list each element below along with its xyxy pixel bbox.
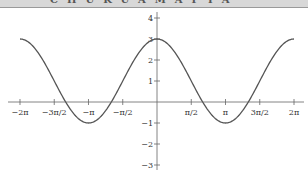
y-tick-label: 1 [148,77,153,86]
x-tick-label: −3π/2 [42,108,67,117]
y-tick-label: −3 [141,161,153,170]
y-tick-label: −2 [141,140,153,149]
x-tick-label: −π/2 [113,108,133,117]
x-tick-label: π [223,108,228,117]
y-tick-label: −1 [141,119,153,128]
y-tick-label: 4 [148,14,153,23]
x-tick-label: 3π/2 [251,108,269,117]
x-tick-label: 2π [289,108,299,117]
x-tick-label: −2π [11,108,28,117]
x-tick-label: −π [83,108,95,117]
cosine-plot: −2π−3π/2−π−π/2π/2π3π/22π4321−1−2−3 [0,0,308,173]
y-tick-label: 2 [148,56,153,65]
x-tick-label: π/2 [185,108,198,117]
